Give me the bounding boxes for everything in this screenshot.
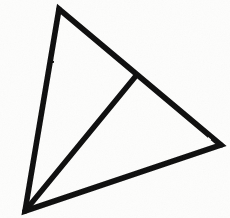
vertex-a-apex: [56, 6, 61, 11]
triangle-diagram: Triangle with internal cevian: [0, 0, 230, 218]
vertex-b-bottom-left: [22, 208, 27, 213]
vertex-c-right: [218, 142, 223, 147]
diagram-background: [0, 0, 230, 218]
figure-canvas: Triangle with internal cevian: [0, 0, 230, 218]
vertex-d-cevian-foot: [133, 75, 137, 79]
